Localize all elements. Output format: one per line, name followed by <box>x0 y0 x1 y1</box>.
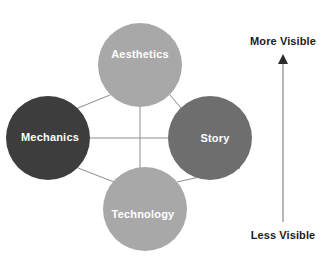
connector-mechanics-technology <box>78 168 114 182</box>
node-technology[interactable]: Technology <box>103 167 187 251</box>
diagram-canvas: Aesthetics Mechanics Story Technology Mo… <box>0 0 329 269</box>
arrow-up-icon <box>278 54 288 64</box>
node-story[interactable]: Story <box>168 96 252 180</box>
aesthetics-circle[interactable] <box>98 23 182 107</box>
visibility-axis: More Visible Less Visible <box>250 35 316 241</box>
more-visible-label: More Visible <box>250 35 316 47</box>
less-visible-label: Less Visible <box>251 229 316 241</box>
mechanics-label: Mechanics <box>21 131 79 143</box>
technology-label: Technology <box>112 208 176 220</box>
node-aesthetics[interactable]: Aesthetics <box>98 23 182 107</box>
story-label: Story <box>200 132 230 144</box>
node-mechanics[interactable]: Mechanics <box>6 96 90 180</box>
mda-framework-diagram: Aesthetics Mechanics Story Technology Mo… <box>0 0 329 269</box>
connector-mechanics-aesthetics <box>78 95 110 108</box>
aesthetics-label: Aesthetics <box>111 48 169 60</box>
connector-aesthetics-story <box>170 95 181 108</box>
